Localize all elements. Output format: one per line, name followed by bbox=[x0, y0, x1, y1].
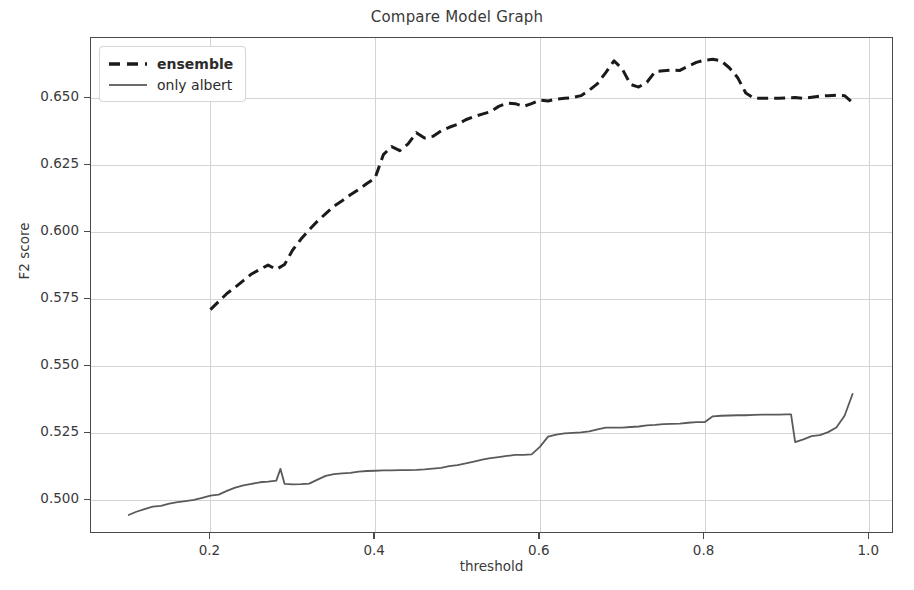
chart-title: Compare Model Graph bbox=[0, 8, 914, 26]
series-line-only-albert bbox=[128, 393, 853, 515]
y-tick-mark bbox=[84, 231, 90, 232]
x-tick-mark bbox=[703, 533, 704, 539]
x-tick-mark bbox=[538, 533, 539, 539]
y-tick-label: 0.625 bbox=[40, 155, 79, 171]
x-tick-mark bbox=[868, 533, 869, 539]
x-tick-label: 0.6 bbox=[509, 542, 569, 558]
y-tick-label: 0.575 bbox=[40, 289, 79, 305]
legend-swatch-solid bbox=[108, 78, 148, 92]
y-tick-mark bbox=[84, 298, 90, 299]
legend-swatch-dashed bbox=[108, 57, 148, 71]
x-tick-label: 0.4 bbox=[344, 542, 404, 558]
series-line-ensemble bbox=[210, 59, 852, 309]
x-tick-label: 0.2 bbox=[179, 542, 239, 558]
legend-label-ensemble: ensemble bbox=[157, 56, 233, 72]
series-layer bbox=[91, 38, 893, 533]
legend-item-ensemble: ensemble bbox=[108, 53, 233, 74]
plot-area bbox=[90, 37, 893, 533]
y-tick-mark bbox=[84, 97, 90, 98]
chart-figure: Compare Model Graph 0.5000.5250.5500.575… bbox=[0, 0, 914, 590]
x-tick-mark bbox=[209, 533, 210, 539]
y-tick-label: 0.650 bbox=[40, 88, 79, 104]
x-axis-label: threshold bbox=[90, 558, 893, 574]
y-axis-label: F2 score bbox=[16, 196, 32, 306]
legend-item-only-albert: only albert bbox=[108, 74, 233, 95]
y-tick-label: 0.600 bbox=[40, 222, 79, 238]
x-tick-label: 0.8 bbox=[674, 542, 734, 558]
y-tick-mark bbox=[84, 432, 90, 433]
y-tick-mark bbox=[84, 499, 90, 500]
x-tick-mark bbox=[373, 533, 374, 539]
y-tick-mark bbox=[84, 164, 90, 165]
y-tick-label: 0.500 bbox=[40, 490, 79, 506]
y-tick-label: 0.525 bbox=[40, 423, 79, 439]
legend: ensemble only albert bbox=[99, 46, 246, 102]
y-tick-label: 0.550 bbox=[40, 356, 79, 372]
x-tick-label: 1.0 bbox=[838, 542, 898, 558]
legend-label-only-albert: only albert bbox=[157, 77, 232, 93]
y-tick-mark bbox=[84, 365, 90, 366]
